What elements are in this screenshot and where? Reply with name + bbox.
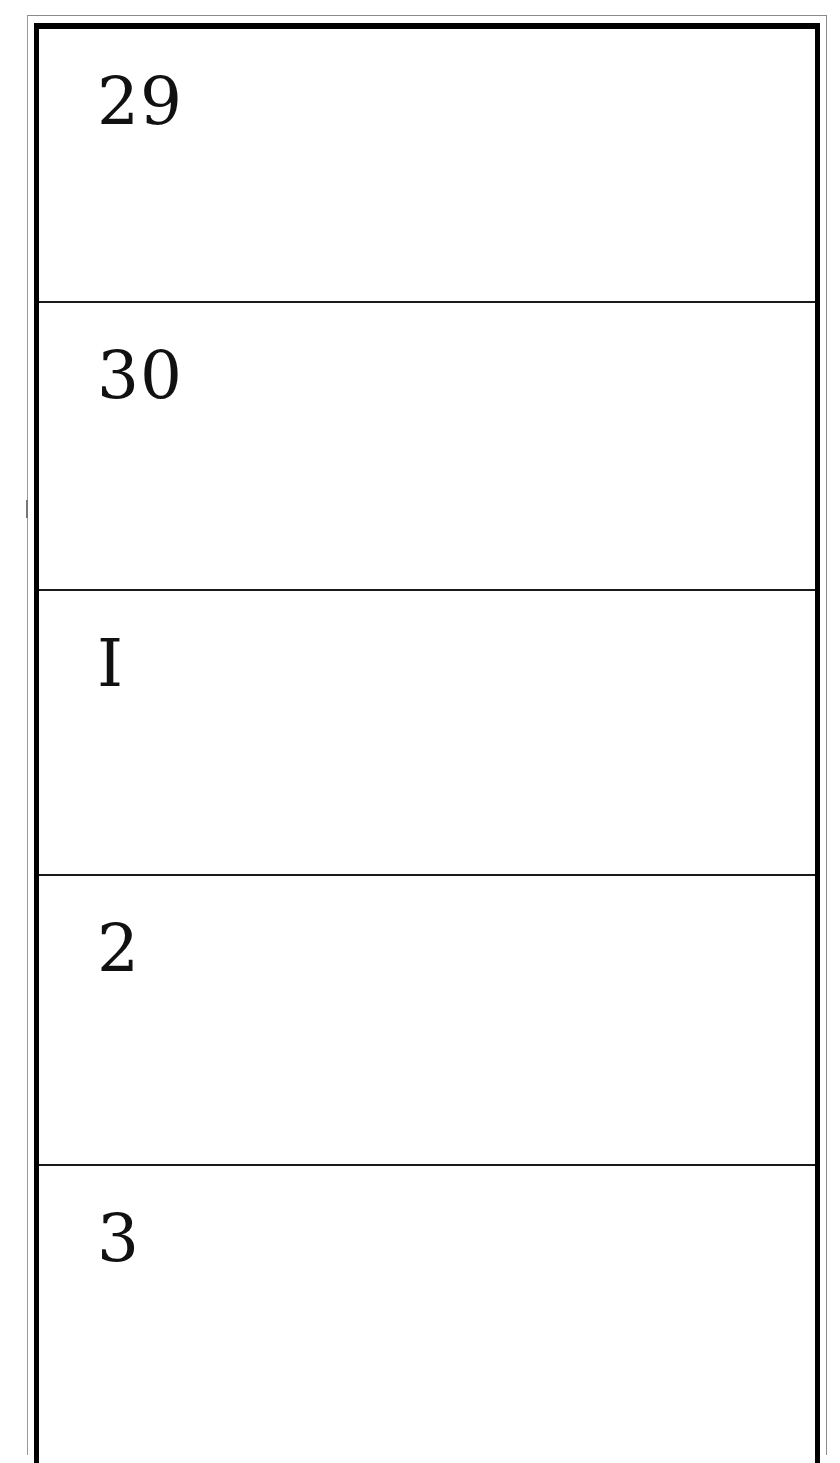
day-cell[interactable]: 29 [39,29,815,303]
day-cell[interactable]: 30 [39,303,815,591]
day-cell[interactable]: 3 [39,1166,815,1446]
day-number: 2 [97,916,140,982]
day-cell[interactable]: I [39,591,815,876]
calendar-day-column: 29 30 I 2 3 [39,29,815,1446]
day-number: 29 [97,69,183,135]
day-number: 3 [97,1206,140,1272]
day-number: 30 [97,343,183,409]
day-cell[interactable]: 2 [39,876,815,1166]
day-number: I [97,631,124,697]
scan-artifact [26,500,28,518]
